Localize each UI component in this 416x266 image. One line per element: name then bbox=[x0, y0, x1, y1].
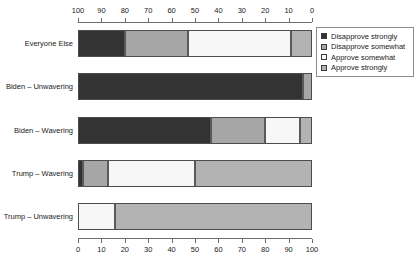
bottom-axis-tick-label: 50 bbox=[183, 245, 207, 254]
bottom-axis-tick-label: 0 bbox=[66, 245, 90, 254]
legend-item-disapprove-strongly: Disapprove strongly bbox=[320, 31, 410, 41]
legend-item-approve-somewhat: Approve somewhat bbox=[320, 52, 410, 62]
legend-swatch-approve-strongly bbox=[321, 65, 327, 71]
legend-item-disapprove-somewhat: Disapprove somewhat bbox=[320, 42, 410, 52]
top-axis-tick-label: 50 bbox=[183, 6, 207, 15]
top-axis-tick bbox=[312, 18, 313, 22]
legend-swatch-disapprove-somewhat bbox=[321, 44, 327, 50]
bottom-axis-tick bbox=[195, 239, 196, 243]
top-axis-tick-label: 30 bbox=[230, 6, 254, 15]
top-axis-tick-label: 100 bbox=[66, 6, 90, 15]
chart-legend: Disapprove strongly Disapprove somewhat … bbox=[316, 27, 414, 77]
bottom-axis-tick bbox=[101, 239, 102, 243]
bar-segment[interactable] bbox=[108, 160, 195, 187]
bottom-axis-tick bbox=[312, 239, 313, 243]
top-axis-tick-label: 70 bbox=[136, 6, 160, 15]
bar-row[interactable] bbox=[78, 160, 312, 187]
bottom-axis-tick bbox=[148, 239, 149, 243]
bottom-axis-tick-label: 60 bbox=[206, 245, 230, 254]
bottom-axis-tick bbox=[172, 239, 173, 243]
category-label: Everyone Else bbox=[0, 39, 73, 48]
top-axis-tick-label: 0 bbox=[300, 6, 324, 15]
top-axis-tick-label: 10 bbox=[277, 6, 301, 15]
bar-row[interactable] bbox=[78, 203, 312, 230]
bottom-axis-tick-label: 80 bbox=[253, 245, 277, 254]
top-axis-tick-label: 60 bbox=[160, 6, 184, 15]
legend-label-disapprove-somewhat: Disapprove somewhat bbox=[331, 42, 405, 51]
bar-segment[interactable] bbox=[291, 30, 312, 57]
legend-swatch-approve-somewhat bbox=[321, 54, 327, 60]
bar-row[interactable] bbox=[78, 30, 312, 57]
bar-segment[interactable] bbox=[78, 30, 125, 57]
category-label: Biden – Wavering bbox=[0, 126, 73, 135]
top-axis-tick-label: 80 bbox=[113, 6, 137, 15]
category-label: Trump – Wavering bbox=[0, 169, 73, 178]
legend-item-approve-strongly: Approve strongly bbox=[320, 63, 410, 73]
bar-row[interactable] bbox=[78, 73, 312, 100]
bar-segment[interactable] bbox=[188, 30, 291, 57]
bottom-axis-tick bbox=[242, 239, 243, 243]
category-label: Trump – Unwavering bbox=[0, 212, 73, 221]
bar-segment[interactable] bbox=[300, 117, 312, 144]
top-axis-tick-label: 90 bbox=[89, 6, 113, 15]
bar-row[interactable] bbox=[78, 117, 312, 144]
top-axis-tick-label: 20 bbox=[253, 6, 277, 15]
bottom-axis-tick-label: 20 bbox=[113, 245, 137, 254]
stacked-bar-chart: 1009080706050403020100 01020304050607080… bbox=[0, 0, 416, 266]
bottom-axis-tick-label: 40 bbox=[160, 245, 184, 254]
bottom-axis-tick-label: 70 bbox=[230, 245, 254, 254]
bar-segment[interactable] bbox=[78, 117, 211, 144]
bar-segment[interactable] bbox=[211, 117, 265, 144]
category-label: Biden – Unwavering bbox=[0, 82, 73, 91]
top-axis-tick-label: 40 bbox=[206, 6, 230, 15]
bar-segment[interactable] bbox=[78, 203, 115, 230]
bottom-axis-tick-label: 10 bbox=[89, 245, 113, 254]
bar-segment[interactable] bbox=[303, 73, 312, 100]
bottom-axis-tick bbox=[125, 239, 126, 243]
legend-label-approve-somewhat: Approve somewhat bbox=[331, 53, 395, 62]
bottom-axis-tick-label: 90 bbox=[277, 245, 301, 254]
bar-segment[interactable] bbox=[125, 30, 188, 57]
bottom-axis-tick-label: 30 bbox=[136, 245, 160, 254]
bar-segment[interactable] bbox=[115, 203, 312, 230]
bottom-axis-tick bbox=[289, 239, 290, 243]
bar-segment[interactable] bbox=[195, 160, 312, 187]
bottom-axis-tick bbox=[265, 239, 266, 243]
legend-label-disapprove-strongly: Disapprove strongly bbox=[331, 32, 397, 41]
legend-label-approve-strongly: Approve strongly bbox=[331, 63, 387, 72]
bottom-axis-tick bbox=[78, 239, 79, 243]
bottom-axis-tick bbox=[218, 239, 219, 243]
bar-segment[interactable] bbox=[83, 160, 109, 187]
bar-segment[interactable] bbox=[265, 117, 300, 144]
legend-swatch-disapprove-strongly bbox=[321, 33, 327, 39]
bar-segment[interactable] bbox=[78, 73, 303, 100]
bottom-axis-tick-label: 100 bbox=[300, 245, 324, 254]
plot-area bbox=[78, 22, 312, 238]
